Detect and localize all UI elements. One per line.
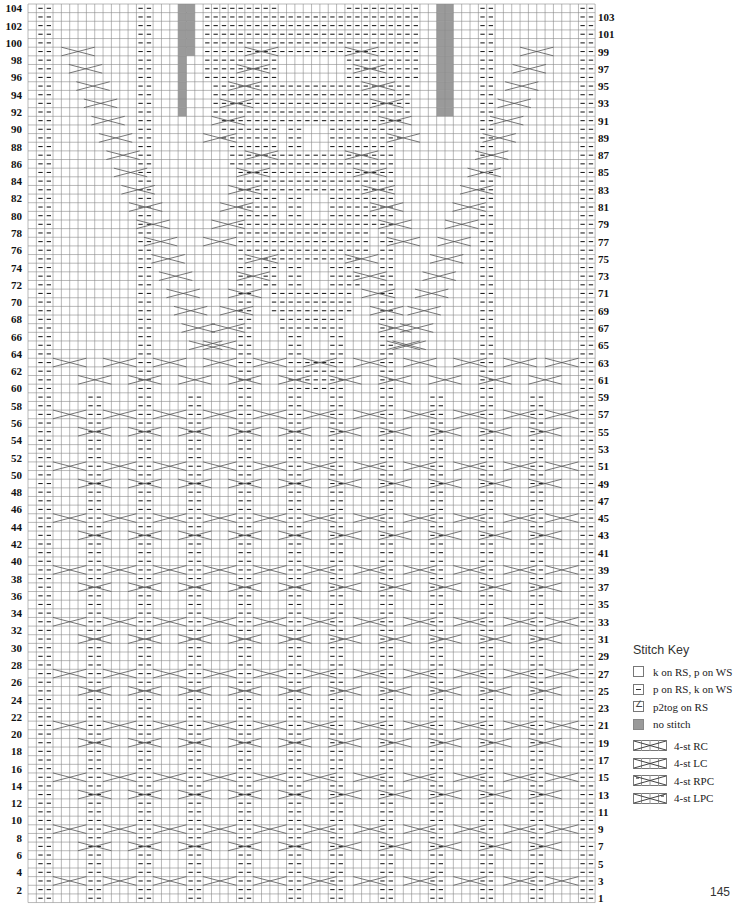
- row-label-right: 89: [598, 133, 609, 143]
- row-label-right: 7: [598, 841, 604, 851]
- key-item-4st-rc: 4-st RC: [633, 737, 736, 755]
- row-label-right: 79: [598, 219, 609, 229]
- row-label-right: 49: [598, 479, 609, 489]
- row-label-left: 96: [0, 72, 22, 82]
- row-label-right: 91: [598, 116, 609, 126]
- row-label-right: 33: [598, 617, 609, 627]
- row-label-right: 65: [598, 340, 609, 350]
- row-label-right: 59: [598, 392, 609, 402]
- row-label-right: 13: [598, 790, 609, 800]
- row-label-left: 18: [0, 746, 22, 756]
- row-label-right: 95: [598, 81, 609, 91]
- purl-dash-icon: [633, 684, 644, 695]
- cable-lpc-icon: [633, 793, 667, 804]
- row-label-left: 104: [0, 3, 22, 13]
- row-label-right: 9: [598, 824, 604, 834]
- row-label-left: 90: [0, 124, 22, 134]
- row-label-left: 58: [0, 401, 22, 411]
- row-label-right: 3: [598, 876, 604, 886]
- row-label-left: 4: [0, 867, 22, 877]
- row-label-left: 16: [0, 764, 22, 774]
- row-label-left: 48: [0, 487, 22, 497]
- key-item-p2tog: p2tog on RS: [633, 698, 736, 716]
- row-label-right: 67: [598, 323, 609, 333]
- row-label-left: 102: [0, 21, 22, 31]
- key-item-4st-lpc: 4-st LPC: [633, 790, 736, 808]
- row-label-right: 101: [598, 29, 615, 39]
- row-label-left: 10: [0, 815, 22, 825]
- row-label-left: 98: [0, 55, 22, 65]
- row-label-right: 11: [598, 807, 608, 817]
- row-label-right: 47: [598, 496, 609, 506]
- row-label-left: 72: [0, 280, 22, 290]
- row-label-left: 50: [0, 470, 22, 480]
- row-label-left: 26: [0, 677, 22, 687]
- row-label-right: 31: [598, 634, 609, 644]
- key-item-4st-rpc: 4-st RPC: [633, 772, 736, 790]
- row-label-left: 32: [0, 625, 22, 635]
- row-label-right: 71: [598, 288, 609, 298]
- row-label-left: 44: [0, 522, 22, 532]
- page-number: 145: [710, 885, 730, 899]
- cable-lc-icon: [633, 758, 667, 769]
- row-label-right: 85: [598, 167, 609, 177]
- row-label-right: 51: [598, 461, 609, 471]
- row-label-left: 82: [0, 193, 22, 203]
- row-label-left: 88: [0, 142, 22, 152]
- row-label-right: 57: [598, 409, 609, 419]
- row-label-right: 39: [598, 565, 609, 575]
- key-item-purl: p on RS, k on WS: [633, 681, 736, 699]
- row-label-right: 45: [598, 513, 609, 523]
- row-label-left: 100: [0, 38, 22, 48]
- row-label-left: 34: [0, 608, 22, 618]
- row-label-left: 66: [0, 332, 22, 342]
- row-label-right: 41: [598, 548, 609, 558]
- row-label-right: 1: [598, 893, 604, 903]
- row-label-left: 46: [0, 504, 22, 514]
- stitch-key-title: Stitch Key: [633, 643, 736, 657]
- row-label-left: 62: [0, 366, 22, 376]
- row-label-right: 83: [598, 185, 609, 195]
- row-label-right: 37: [598, 582, 609, 592]
- row-label-right: 81: [598, 202, 609, 212]
- stitch-key: Stitch Key k on RS, p on WS p on RS, k o…: [633, 643, 736, 807]
- row-label-left: 78: [0, 228, 22, 238]
- row-label-right: 23: [598, 703, 609, 713]
- row-label-left: 84: [0, 176, 22, 186]
- row-label-left: 54: [0, 435, 22, 445]
- row-label-left: 68: [0, 314, 22, 324]
- row-label-right: 21: [598, 720, 609, 730]
- row-label-right: 5: [598, 859, 604, 869]
- row-label-left: 92: [0, 107, 22, 117]
- row-label-right: 97: [598, 64, 609, 74]
- row-label-left: 40: [0, 556, 22, 566]
- row-label-left: 76: [0, 245, 22, 255]
- row-label-right: 99: [598, 47, 609, 57]
- p2tog-icon: [633, 701, 644, 712]
- row-label-right: 103: [598, 12, 615, 22]
- row-label-right: 43: [598, 530, 609, 540]
- row-label-left: 12: [0, 798, 22, 808]
- row-label-right: 25: [598, 686, 609, 696]
- row-label-right: 17: [598, 755, 609, 765]
- row-label-right: 87: [598, 150, 609, 160]
- row-label-left: 86: [0, 159, 22, 169]
- row-label-left: 56: [0, 418, 22, 428]
- row-label-left: 52: [0, 453, 22, 463]
- row-label-right: 61: [598, 375, 609, 385]
- knit-square-icon: [633, 666, 644, 677]
- row-label-left: 14: [0, 781, 22, 791]
- row-label-right: 53: [598, 444, 609, 454]
- row-label-right: 55: [598, 427, 609, 437]
- row-label-left: 38: [0, 574, 22, 584]
- row-label-left: 28: [0, 660, 22, 670]
- row-label-right: 63: [598, 358, 609, 368]
- row-label-right: 77: [598, 237, 609, 247]
- no-stitch-grey-icon: [633, 719, 644, 730]
- row-label-left: 42: [0, 539, 22, 549]
- key-item-4st-lc: 4-st LC: [633, 755, 736, 773]
- row-label-right: 27: [598, 669, 609, 679]
- row-label-left: 36: [0, 591, 22, 601]
- row-label-left: 94: [0, 90, 22, 100]
- row-label-left: 60: [0, 383, 22, 393]
